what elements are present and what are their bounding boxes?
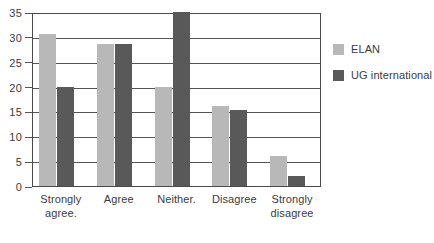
plot-area (32, 13, 321, 187)
y-axis-tick-mark (25, 37, 32, 38)
x-axis-category-labels: Stronglyagree.AgreeNeither.DisagreeStron… (32, 192, 321, 242)
y-axis-tick-mark (25, 162, 32, 163)
bar-strongly-agree-elan[interactable] (39, 34, 56, 186)
legend-label: UG international (351, 69, 432, 81)
y-axis-tick-30: 30 (9, 31, 32, 45)
bar-strongly-agree-ug-international[interactable] (57, 87, 74, 186)
y-axis-tick-label: 25 (9, 56, 25, 70)
bar-group (39, 13, 74, 186)
legend-item[interactable]: UG international (333, 69, 432, 81)
x-axis-label-line: Strongly (257, 192, 327, 206)
y-axis-tick-5: 5 (16, 155, 32, 169)
bar-disagree-ug-international[interactable] (230, 110, 247, 186)
y-axis-tick-35: 35 (9, 6, 32, 20)
bar-group (270, 13, 305, 186)
y-axis-tick-label: 5 (16, 155, 25, 169)
bar-agree-ug-international[interactable] (115, 44, 132, 186)
bar-chart: 05101520253035 Stronglyagree.AgreeNeithe… (0, 0, 434, 243)
y-axis-tick-label: 0 (16, 180, 25, 194)
y-axis-tick-mark (25, 62, 32, 63)
y-axis-tick-25: 25 (9, 56, 32, 70)
y-axis-tick-label: 15 (9, 105, 25, 119)
bar-group (97, 13, 132, 186)
x-axis-label-line: agree. (26, 206, 96, 220)
y-axis-tick-label: 20 (9, 81, 25, 95)
y-axis-tick-mark (25, 187, 32, 188)
y-axis-tick-10: 10 (9, 130, 32, 144)
legend-swatch-icon (333, 70, 344, 81)
x-axis-label-line: disagree (257, 206, 327, 220)
legend-swatch-icon (333, 44, 344, 55)
legend-label: ELAN (351, 43, 380, 55)
y-axis-tick-mark (25, 13, 32, 14)
bar-strongly-disagree-ug-international[interactable] (288, 176, 305, 186)
y-axis-tick-20: 20 (9, 81, 32, 95)
bar-group (212, 13, 247, 186)
x-axis-label: Stronglydisagree (257, 192, 327, 220)
bar-disagree-elan[interactable] (212, 106, 229, 186)
y-axis-tick-mark (25, 137, 32, 138)
y-axis-tick-15: 15 (9, 105, 32, 119)
legend-item[interactable]: ELAN (333, 43, 432, 55)
chart-legend: ELANUG international (333, 43, 432, 95)
y-axis-tick-label: 35 (9, 6, 25, 20)
bars-layer (33, 13, 320, 186)
y-axis-tick-mark (25, 112, 32, 113)
y-axis-tick-mark (25, 87, 32, 88)
y-axis-tick-label: 10 (9, 130, 25, 144)
bar-neither-elan[interactable] (155, 87, 172, 186)
bar-neither-ug-international[interactable] (173, 12, 190, 186)
bar-strongly-disagree-elan[interactable] (270, 156, 287, 186)
bar-group (155, 13, 190, 186)
y-axis-tick-label: 30 (9, 31, 25, 45)
bar-agree-elan[interactable] (97, 44, 114, 186)
